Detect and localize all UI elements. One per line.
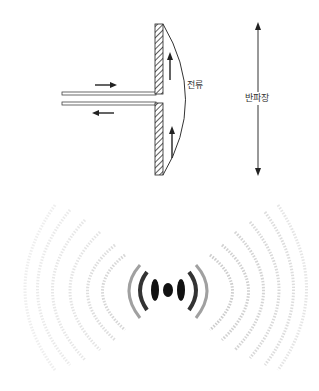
current-label: 전류 xyxy=(187,80,203,91)
radiation-pattern xyxy=(25,205,307,370)
half-wavelength-label: 반파장 xyxy=(245,92,269,105)
antenna-plate xyxy=(155,24,163,175)
feed-arrow-right-icon xyxy=(95,82,117,88)
current-distribution-curve xyxy=(163,24,186,175)
current-arrow-up-icon xyxy=(167,52,173,80)
feed-arrow-left-icon xyxy=(92,110,114,116)
antenna-diagram xyxy=(0,0,319,391)
feed-line xyxy=(62,92,156,105)
